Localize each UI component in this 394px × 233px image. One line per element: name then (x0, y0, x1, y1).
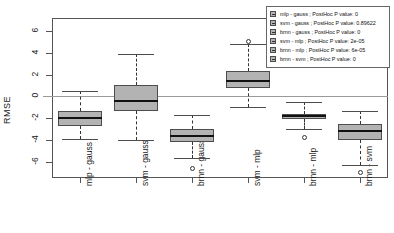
x-axis-tick-label: brnn - mlp (308, 148, 318, 186)
boxplot-whisker-cap (174, 158, 210, 159)
y-axis-tick (46, 140, 52, 141)
x-axis-tick (360, 178, 361, 183)
boxplot-whisker (136, 54, 137, 86)
legend-item: mlp - gauss ; PostHoc P value: 0 (270, 10, 386, 18)
legend-box-icon (270, 29, 276, 35)
legend-box-icon (270, 11, 276, 17)
boxplot-median (338, 130, 382, 132)
y-axis-tick-label: 4 (30, 41, 40, 63)
y-axis-tick (46, 75, 52, 76)
x-axis-tick-label: brnn - gauss (196, 139, 206, 186)
legend-item: svm - mlp ; PostHoc P value: 2e-05 (270, 37, 386, 45)
boxplot-whisker (136, 111, 137, 140)
legend-box-icon (270, 47, 276, 53)
legend-item: brnn - gauss ; PostHoc P value: 0 (270, 28, 386, 36)
y-axis-tick-label: -4 (30, 128, 40, 150)
boxplot-whisker-cap (62, 91, 98, 92)
boxplot-whisker-cap (118, 140, 154, 141)
boxplot-outlier (190, 166, 195, 171)
legend-box-icon (270, 56, 276, 62)
x-axis-tick (304, 178, 305, 183)
boxplot-whisker (304, 119, 305, 129)
boxplot-whisker (248, 44, 249, 71)
boxplot-median (170, 135, 214, 137)
boxplot-whisker-cap (286, 102, 322, 103)
x-axis-tick-label: svm - gauss (140, 140, 150, 186)
zero-reference-line (43, 96, 388, 97)
legend-item: brnn - mlp ; PostHoc P value: 6e-05 (270, 46, 386, 54)
legend-item: svm - gauss ; PostHoc P value: 0.89622 (270, 19, 386, 27)
boxplot-whisker (248, 88, 249, 108)
boxplot-median (282, 115, 326, 117)
boxplot-whisker-cap (342, 165, 378, 166)
boxplot-chart: RMSE 6420-2-4-6mlp - gausssvm - gaussbrn… (0, 0, 394, 233)
boxplot-whisker-cap (62, 139, 98, 140)
y-axis-tick-label: 0 (30, 84, 40, 106)
boxplot-box (114, 85, 158, 110)
boxplot-whisker (80, 126, 81, 139)
legend: mlp - gauss ; PostHoc P value: 0svm - ga… (266, 6, 390, 68)
y-axis-tick (46, 118, 52, 119)
x-axis-tick (192, 178, 193, 183)
legend-item-label: brnn - mlp ; PostHoc P value: 6e-05 (280, 46, 365, 54)
boxplot-whisker (80, 91, 81, 111)
boxplot-outlier (358, 170, 363, 175)
legend-item-label: brnn - svm ; PostHoc P value: 0 (280, 55, 356, 63)
boxplot-whisker-cap (230, 107, 266, 108)
boxplot-whisker (360, 140, 361, 165)
legend-item: brnn - svm ; PostHoc P value: 0 (270, 55, 386, 63)
y-axis-tick-label: 6 (30, 19, 40, 41)
x-axis-tick-label: svm - mlp (252, 149, 262, 186)
boxplot-whisker (304, 102, 305, 114)
y-axis-tick-label: -2 (30, 106, 40, 128)
legend-item-label: svm - gauss ; PostHoc P value: 0.89622 (280, 19, 376, 27)
legend-item-label: svm - mlp ; PostHoc P value: 2e-05 (280, 37, 364, 45)
boxplot-whisker-cap (118, 54, 154, 55)
x-axis-tick (136, 178, 137, 183)
y-axis-tick (46, 53, 52, 54)
x-axis-tick (80, 178, 81, 183)
boxplot-whisker (360, 111, 361, 124)
x-axis-tick-label: mlp - gauss (84, 142, 94, 186)
legend-box-icon (270, 38, 276, 44)
boxplot-whisker-cap (230, 44, 266, 45)
boxplot-whisker (192, 115, 193, 129)
boxplot-median (114, 100, 158, 102)
boxplot-whisker-cap (342, 111, 378, 112)
y-axis-tick-label: 2 (30, 63, 40, 85)
boxplot-whisker-cap (286, 129, 322, 130)
boxplot-whisker-cap (174, 115, 210, 116)
boxplot-outlier (302, 135, 307, 140)
boxplot-whisker (192, 142, 193, 158)
boxplot-median (58, 117, 102, 119)
boxplot-median (226, 80, 270, 82)
y-axis-tick (46, 162, 52, 163)
legend-item-label: mlp - gauss ; PostHoc P value: 0 (280, 10, 358, 18)
y-axis-title-label: RMSE (2, 96, 12, 124)
legend-box-icon (270, 20, 276, 26)
y-axis-tick-label: -6 (30, 150, 40, 172)
y-axis-tick (46, 31, 52, 32)
legend-item-label: brnn - gauss ; PostHoc P value: 0 (280, 28, 360, 36)
x-axis-tick (248, 178, 249, 183)
